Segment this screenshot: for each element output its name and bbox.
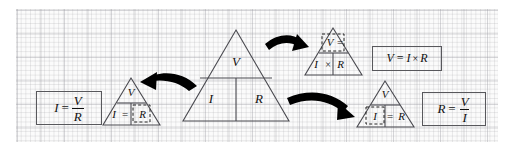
formula-box-i-equals-v-over-r: I = V R [36, 91, 102, 125]
formula-lhs-r: R [437, 101, 448, 117]
top-right-triangle-multiply: × [322, 57, 334, 71]
arrow-to-bottom-right-triangle [287, 92, 355, 120]
fraction-v-over-r: V R [72, 94, 84, 123]
fraction-numerator-v-2: V [459, 95, 471, 109]
top-right-triangle-cell-i: I [310, 57, 322, 71]
top-right-triangle-operator: = [334, 35, 346, 49]
diagram-vector-layer [0, 0, 513, 151]
formula-equals-sign-2: = [397, 51, 407, 66]
fraction-v-over-i: V I [459, 95, 471, 124]
top-right-triangle-cell-r: R [334, 57, 347, 71]
fraction-denominator-i: I [460, 109, 468, 124]
formula-lhs-v: V [386, 51, 396, 66]
center-triangle-cell-i: I [200, 91, 222, 107]
left-triangle-cell-v: V [123, 85, 139, 99]
formula-lhs-i: I [54, 100, 61, 116]
bottom-right-triangle-cell-r: R [395, 109, 408, 123]
bottom-right-triangle-cell-v: V [377, 87, 393, 101]
fraction-numerator-v: V [72, 94, 84, 108]
left-triangle-cell-r: R [136, 107, 149, 121]
formula-box-v-equals-i-times-r: V = I × R [372, 46, 442, 71]
bottom-right-triangle-cell-i: I [369, 109, 381, 123]
formula-box-r-equals-v-over-i: R = V I [422, 92, 486, 126]
arrow-to-top-right-triangle [265, 34, 309, 51]
formula-equals-sign: = [62, 100, 72, 116]
formula-rhs-r: R [420, 51, 427, 66]
fraction-denominator-r: R [72, 108, 84, 123]
center-triangle-cell-r: R [248, 91, 270, 107]
left-triangle-operator: = [119, 107, 131, 121]
center-triangle-cell-v: V [222, 54, 250, 70]
arrow-to-left-triangle [140, 72, 197, 91]
figure-canvas: V I R V I = R V = I × R V I = R I = V R … [0, 0, 513, 151]
formula-equals-sign-3: = [448, 101, 458, 117]
